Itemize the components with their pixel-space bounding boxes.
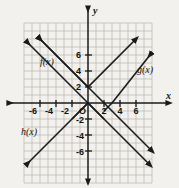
label-f: f(x) [40,56,55,68]
x-tick-label: 4 [117,106,122,116]
y-tick-label: -6 [76,147,84,157]
graph-figure: y x O -6 -4 -2 2 4 6 6 4 2 -2 -4 -6 f(x)… [0,0,179,188]
x-tick-label: 6 [133,106,138,116]
coordinate-plane-svg: y x O -6 -4 -2 2 4 6 6 4 2 -2 -4 -6 f(x)… [0,0,179,188]
x-tick-label: -2 [61,106,69,116]
x-tick-label: 2 [101,106,106,116]
y-tick-label: 4 [76,66,81,76]
y-axis-name: y [92,5,98,16]
y-tick-label: -4 [76,131,84,141]
x-tick-label: -4 [45,106,53,116]
y-tick-label: -2 [76,115,84,125]
label-h: h(x) [21,126,38,138]
y-tick-label: 2 [76,82,81,92]
label-g: g(x) [137,64,154,76]
x-tick-label: -6 [29,106,37,116]
y-tick-label: 6 [76,50,81,60]
x-axis-name: x [165,90,171,101]
